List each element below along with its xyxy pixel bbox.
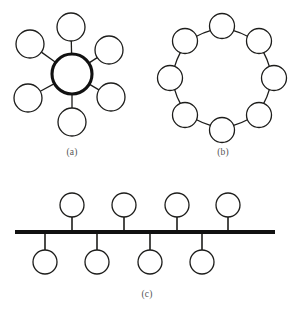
ring-node-2 bbox=[247, 29, 272, 54]
star-node-lower-left bbox=[14, 84, 42, 112]
ring-node-5 bbox=[210, 118, 235, 143]
ring-link-7-to-8 bbox=[175, 53, 181, 67]
bus-node-top-4 bbox=[216, 193, 240, 217]
star-topology-group: (a) bbox=[14, 13, 125, 158]
star-spoke-to-star-node-lower-left bbox=[40, 83, 55, 91]
bus-node-bottom-4 bbox=[190, 250, 214, 274]
star-spoke-to-star-node-upper-left bbox=[41, 52, 56, 63]
ring-nodes bbox=[158, 14, 287, 143]
ring-link-4-to-5 bbox=[234, 120, 248, 126]
network-topology-figure: (a) (b) (c) bbox=[0, 0, 295, 317]
caption-panel-a: (a) bbox=[66, 147, 77, 158]
ring-link-8-to-1 bbox=[197, 31, 211, 37]
bus-node-top-3 bbox=[165, 193, 189, 217]
ring-node-3 bbox=[262, 66, 287, 91]
bus-node-top-2 bbox=[112, 193, 136, 217]
ring-link-2-to-3 bbox=[264, 53, 270, 67]
ring-topology-group: (b) bbox=[158, 14, 287, 159]
ring-link-1-to-2 bbox=[234, 31, 248, 37]
star-node-top bbox=[57, 13, 85, 41]
ring-link-3-to-4 bbox=[264, 90, 270, 104]
ring-link-5-to-6 bbox=[197, 120, 211, 126]
bus-node-bottom-1 bbox=[33, 250, 57, 274]
ring-node-6 bbox=[173, 103, 198, 128]
caption-panel-c: (c) bbox=[141, 289, 152, 300]
star-node-bottom bbox=[58, 108, 86, 136]
bus-topology-group: (c) bbox=[15, 193, 275, 300]
ring-node-1 bbox=[210, 14, 235, 39]
ring-node-4 bbox=[247, 103, 272, 128]
bus-node-top-1 bbox=[60, 193, 84, 217]
star-node-upper-left bbox=[16, 30, 44, 58]
caption-panel-b: (b) bbox=[217, 147, 229, 158]
bus-node-bottom-2 bbox=[85, 250, 109, 274]
ring-link-6-to-7 bbox=[175, 90, 181, 104]
bus-node-bottom-3 bbox=[138, 250, 162, 274]
ring-node-8 bbox=[173, 29, 198, 54]
topology-canvas: (a) (b) (c) bbox=[0, 0, 295, 317]
ring-node-7 bbox=[158, 66, 183, 91]
star-node-upper-right bbox=[95, 36, 123, 64]
star-node-lower-right bbox=[97, 83, 125, 111]
star-hub-node bbox=[52, 54, 92, 94]
